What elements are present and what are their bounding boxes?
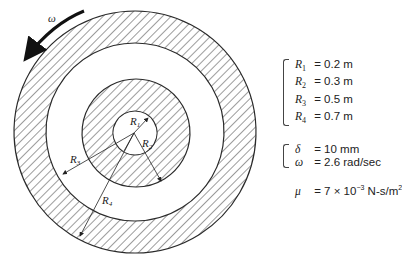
other-params-group: δ = 10 mm ω = 2.6 rad/sec <box>283 143 402 169</box>
r2-label: R2 <box>141 137 153 151</box>
r1-label: R1 <box>129 115 140 129</box>
r3-label: R3 <box>69 153 81 167</box>
brace-icon <box>283 144 289 168</box>
param-omega: ω = 2.6 rad/sec <box>295 156 402 169</box>
r4-label: R4 <box>101 194 113 208</box>
parameter-list: R1 = 0.2 m R2 = 0.3 m R3 = 0.5 m R4 = 0.… <box>283 58 402 198</box>
brace-icon <box>283 59 289 126</box>
param-r3: R3 = 0.5 m <box>295 93 402 110</box>
param-r1: R1 = 0.2 m <box>295 58 402 75</box>
param-viscosity: μ = 7 × 10−3 N-s/m2 <box>283 181 402 198</box>
radii-group: R1 = 0.2 m R2 = 0.3 m R3 = 0.5 m R4 = 0.… <box>283 58 402 127</box>
param-r2: R2 = 0.3 m <box>295 75 402 92</box>
inner-annulus <box>82 79 190 187</box>
param-delta: δ = 10 mm <box>295 143 402 156</box>
omega-label: ω <box>48 12 56 24</box>
param-r4: R4 = 0.7 m <box>295 110 402 127</box>
